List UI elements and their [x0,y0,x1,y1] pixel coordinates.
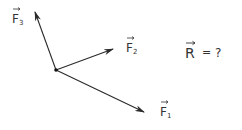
svg-text:3: 3 [19,19,23,27]
svg-text:1: 1 [167,112,171,120]
origin-point [54,68,58,72]
vector-f3 [35,12,56,70]
svg-text:2: 2 [133,48,137,56]
equals-sign: = [202,46,211,59]
vector-f2 [56,49,113,70]
label-f3: F 3 [12,8,23,28]
svg-text:F: F [12,12,19,26]
label-f1: F 1 [160,101,171,121]
label-f2: F 2 [126,37,137,57]
force-diagram: F 3 F 2 F 1 R = ? [0,0,242,130]
resultant-symbol: R [185,45,195,61]
vector-f1 [56,70,144,112]
resultant-question: R = ? [185,41,221,61]
question-mark: ? [215,46,221,60]
svg-text:F: F [126,41,133,55]
svg-text:F: F [160,105,167,119]
